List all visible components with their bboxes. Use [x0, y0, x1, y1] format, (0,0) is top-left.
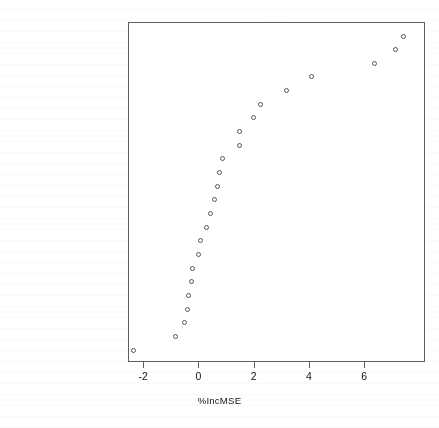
data-point	[131, 348, 136, 353]
data-point	[237, 129, 242, 134]
x-axis-tick-label: 2	[251, 370, 257, 382]
data-point	[401, 34, 406, 39]
data-point	[196, 252, 201, 257]
data-point	[217, 170, 222, 175]
x-axis-tick-label: -2	[139, 370, 148, 382]
data-point	[204, 225, 209, 230]
data-point	[208, 211, 213, 216]
x-axis-tick-label: 0	[196, 370, 202, 382]
data-point	[284, 88, 289, 93]
data-point	[309, 74, 314, 79]
data-point	[372, 61, 377, 66]
x-axis-tick	[143, 362, 144, 368]
data-point	[182, 320, 187, 325]
x-axis-tick	[309, 362, 310, 368]
data-point	[251, 115, 256, 120]
data-point	[185, 307, 190, 312]
data-point	[220, 156, 225, 161]
data-point	[198, 238, 203, 243]
x-axis-tick	[364, 362, 365, 368]
data-point	[186, 293, 191, 298]
x-axis-tick-label: 6	[361, 370, 367, 382]
data-point	[173, 334, 178, 339]
data-point	[215, 184, 220, 189]
category-axis-labels: app.a5dapp.a4capp.a5cmood.l1app.a3csms.c…	[0, 22, 124, 362]
data-point	[258, 102, 263, 107]
x-axis-tick-label: 4	[306, 370, 312, 382]
data-point	[212, 197, 217, 202]
data-point	[189, 279, 194, 284]
x-axis-title: %IncMSE	[0, 395, 439, 406]
x-axis-tick	[254, 362, 255, 368]
variable-importance-plot: app.a5dapp.a4capp.a5cmood.l1app.a3csms.c…	[0, 0, 439, 428]
plot-area	[128, 22, 425, 362]
x-axis-tick	[198, 362, 199, 368]
data-point	[190, 266, 195, 271]
data-point	[237, 143, 242, 148]
data-point	[393, 47, 398, 52]
